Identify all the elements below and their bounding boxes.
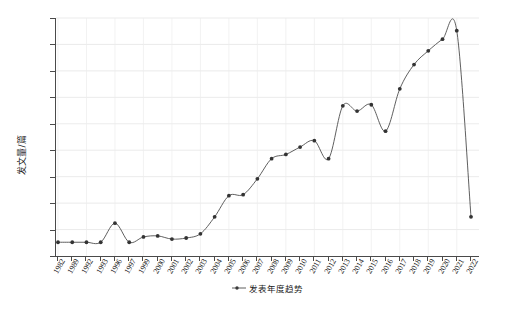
x-axis-tick-label: 2000 [152, 258, 167, 275]
x-axis-tick-label: 2001 [166, 258, 181, 275]
x-axis-tick-label: 1989 [67, 258, 82, 275]
x-axis-tick-label: 2006 [238, 258, 253, 275]
legend: 发表年度趋势 [232, 282, 303, 294]
x-axis-tick-label: 2021 [451, 258, 466, 275]
x-axis-tick-label: 2011 [309, 258, 323, 275]
x-axis-tick-label: 2007 [252, 258, 267, 275]
x-axis-tick-label: 2012 [323, 258, 338, 275]
x-axis-tick-label: 2018 [408, 258, 423, 275]
x-axis-tick-label: 2008 [266, 258, 281, 275]
x-axis-tick-label: 2020 [437, 258, 452, 275]
x-axis-tick-label: 2003 [195, 258, 210, 275]
x-axis-tick-label: 2017 [394, 258, 409, 275]
y-axis-title: 发文量/篇 [15, 135, 28, 174]
legend-line-marker-icon [232, 284, 246, 292]
x-axis-tick-label: 1993 [95, 258, 110, 275]
x-axis-tick-label: 2016 [380, 258, 395, 275]
x-axis-tick-label: 1997 [124, 258, 139, 275]
x-axis-tick-label: 1982 [52, 258, 67, 275]
x-axis-tick-label: 2014 [351, 258, 366, 275]
x-axis-tick-label: 2022 [465, 258, 480, 275]
plot-area [55, 18, 479, 257]
x-axis-tick-label: 1992 [81, 258, 96, 275]
legend-label: 发表年度趋势 [249, 282, 303, 294]
x-axis-tick-label: 2010 [294, 258, 309, 275]
x-axis-tick-label: 2019 [423, 258, 438, 275]
x-axis-tick-label: 2002 [181, 258, 196, 275]
x-axis-tick-label: 2004 [209, 258, 224, 275]
series-layer [56, 18, 479, 256]
x-axis-tick-label: 1996 [109, 258, 124, 275]
x-axis-tick-label: 2005 [223, 258, 238, 275]
x-axis-tick-label: 2013 [337, 258, 352, 275]
x-axis-tick-label: 2009 [280, 258, 295, 275]
line-chart: 发文量/篇 0255075100125150175200225 19821989… [0, 0, 507, 309]
x-axis-tick-label: 1999 [138, 258, 153, 275]
x-axis-tick-label: 2015 [366, 258, 381, 275]
